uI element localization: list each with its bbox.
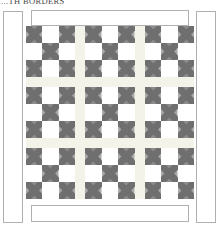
hourglass-patch bbox=[118, 60, 134, 77]
horizontal-sashing bbox=[85, 138, 134, 148]
plain-patch bbox=[85, 104, 101, 121]
hourglass-patch bbox=[102, 43, 118, 60]
quilt-center-field bbox=[26, 26, 194, 199]
hourglass-patch bbox=[59, 60, 75, 77]
hourglass-patch bbox=[118, 148, 134, 165]
hourglass-patch bbox=[145, 148, 161, 165]
plain-patch bbox=[42, 182, 58, 199]
page-title: ...TH BORDERS bbox=[1, 0, 65, 6]
quilt-block bbox=[85, 148, 134, 199]
hourglass-patch bbox=[118, 121, 134, 138]
plain-patch bbox=[85, 165, 101, 182]
plain-patch bbox=[85, 43, 101, 60]
quilt-block bbox=[145, 87, 194, 138]
plain-patch bbox=[102, 26, 118, 43]
vertical-sashing bbox=[135, 26, 145, 77]
hourglass-patch bbox=[26, 26, 42, 43]
plain-patch bbox=[161, 26, 177, 43]
quilt-block bbox=[26, 87, 75, 138]
plain-patch bbox=[26, 104, 42, 121]
plain-patch bbox=[102, 121, 118, 138]
hourglass-patch bbox=[85, 182, 101, 199]
horizontal-sashing bbox=[145, 138, 194, 148]
hourglass-patch bbox=[102, 165, 118, 182]
plain-patch bbox=[102, 182, 118, 199]
sashing-intersection bbox=[135, 77, 145, 87]
hourglass-patch bbox=[161, 43, 177, 60]
hourglass-patch bbox=[178, 60, 194, 77]
plain-patch bbox=[145, 104, 161, 121]
horizontal-sashing bbox=[145, 77, 194, 87]
hourglass-patch bbox=[85, 148, 101, 165]
hourglass-patch bbox=[145, 26, 161, 43]
plain-patch bbox=[161, 60, 177, 77]
plain-patch bbox=[42, 26, 58, 43]
plain-patch bbox=[42, 148, 58, 165]
right-border-strip bbox=[196, 11, 216, 223]
vertical-sashing bbox=[75, 87, 85, 138]
hourglass-patch bbox=[26, 60, 42, 77]
quilt-block bbox=[85, 87, 134, 138]
hourglass-patch bbox=[59, 87, 75, 104]
plain-patch bbox=[145, 165, 161, 182]
top-border-strip bbox=[31, 10, 189, 26]
plain-patch bbox=[59, 104, 75, 121]
vertical-sashing bbox=[135, 148, 145, 199]
plain-patch bbox=[102, 60, 118, 77]
hourglass-patch bbox=[118, 26, 134, 43]
hourglass-patch bbox=[85, 87, 101, 104]
hourglass-patch bbox=[85, 121, 101, 138]
quilt-block bbox=[145, 148, 194, 199]
horizontal-sashing bbox=[85, 77, 134, 87]
plain-patch bbox=[118, 165, 134, 182]
hourglass-patch bbox=[42, 43, 58, 60]
hourglass-patch bbox=[178, 182, 194, 199]
plain-patch bbox=[161, 121, 177, 138]
plain-patch bbox=[118, 43, 134, 60]
hourglass-patch bbox=[161, 104, 177, 121]
hourglass-patch bbox=[42, 165, 58, 182]
plain-patch bbox=[26, 165, 42, 182]
hourglass-patch bbox=[42, 104, 58, 121]
plain-patch bbox=[145, 43, 161, 60]
hourglass-patch bbox=[178, 26, 194, 43]
sashing-intersection bbox=[75, 77, 85, 87]
horizontal-sashing bbox=[26, 138, 75, 148]
vertical-sashing bbox=[75, 148, 85, 199]
quilt-block bbox=[85, 26, 134, 77]
quilt-block bbox=[145, 26, 194, 77]
hourglass-patch bbox=[26, 87, 42, 104]
plain-patch bbox=[26, 43, 42, 60]
plain-patch bbox=[102, 148, 118, 165]
hourglass-patch bbox=[178, 87, 194, 104]
hourglass-patch bbox=[59, 148, 75, 165]
hourglass-patch bbox=[59, 182, 75, 199]
left-border-strip bbox=[3, 11, 23, 223]
quilt-layout-diagram: ...TH BORDERS bbox=[0, 0, 219, 231]
quilt-block bbox=[26, 148, 75, 199]
hourglass-patch bbox=[26, 121, 42, 138]
plain-patch bbox=[42, 60, 58, 77]
sashing-intersection bbox=[135, 138, 145, 148]
plain-patch bbox=[42, 121, 58, 138]
hourglass-patch bbox=[102, 104, 118, 121]
plain-patch bbox=[178, 165, 194, 182]
plain-patch bbox=[161, 87, 177, 104]
vertical-sashing bbox=[135, 87, 145, 138]
vertical-sashing bbox=[75, 26, 85, 77]
hourglass-patch bbox=[178, 148, 194, 165]
plain-patch bbox=[178, 43, 194, 60]
plain-patch bbox=[178, 104, 194, 121]
plain-patch bbox=[42, 87, 58, 104]
plain-patch bbox=[102, 87, 118, 104]
hourglass-patch bbox=[59, 121, 75, 138]
plain-patch bbox=[161, 148, 177, 165]
hourglass-patch bbox=[161, 165, 177, 182]
sashing-intersection bbox=[75, 138, 85, 148]
hourglass-patch bbox=[145, 87, 161, 104]
bottom-border-strip bbox=[31, 205, 189, 222]
hourglass-patch bbox=[118, 182, 134, 199]
hourglass-patch bbox=[118, 87, 134, 104]
hourglass-patch bbox=[85, 26, 101, 43]
plain-patch bbox=[161, 182, 177, 199]
